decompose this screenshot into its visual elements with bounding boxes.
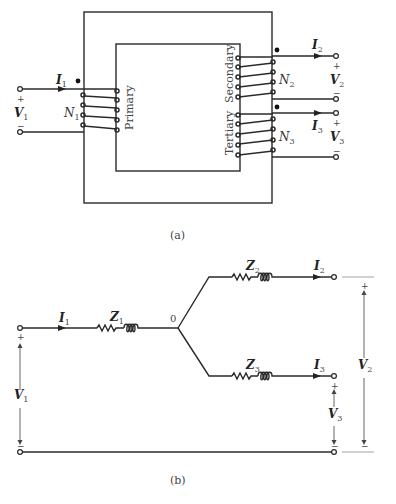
branch-lower [178,328,232,376]
v3-label: V3 [330,130,344,146]
secondary-polarity-dot [275,48,280,53]
n1-label: N1 [63,106,80,122]
i2-label-b: I2 [313,259,325,275]
v1-plus-sign: + [17,94,25,104]
v3-terminal-top [332,374,337,379]
v2-minus-sign: − [333,88,341,98]
i3-label-b: I3 [313,358,325,374]
i3-label: I3 [311,119,323,135]
figure-b: I1 Z1 0 Z2 I2 Z3 I3 + V1 [14,259,374,487]
secondary-coil [236,56,275,99]
primary-polarity-dot [76,79,81,84]
v1-label: V1 [14,106,28,122]
primary-label: Primary [123,85,136,130]
z2-inductor [258,273,279,281]
n3-label: N3 [278,130,295,146]
v3-minus-b: − [331,441,339,451]
branch-upper [178,277,232,328]
z3-label: Z3 [245,358,260,374]
v3-plus-b: + [331,381,339,391]
i2-label: I2 [311,38,323,54]
i1-label-b: I1 [58,311,70,327]
v2-minus-b: − [361,441,369,451]
v3-terminal-plus [334,111,339,116]
three-winding-transformer-figure: I1 + V1 − N1 Primary I2 N2 [0,0,396,504]
secondary-label: Secondary [223,43,236,103]
v2-plus-sign: + [333,61,341,71]
z3-inductor [258,372,279,380]
figure-a: I1 + V1 − N1 Primary I2 N2 [14,12,344,242]
tertiary-polarity-dot [275,105,280,110]
v3-plus-sign: + [333,118,341,128]
i1-label: I1 [55,73,67,89]
node-0-label: 0 [170,313,176,324]
v1-terminal-top [18,326,23,331]
primary-coil [81,89,119,132]
v3-minus-sign: − [333,146,341,156]
v2-label: V2 [330,73,344,89]
tertiary-coil [236,113,275,157]
v2-terminal-plus [334,54,339,59]
v1-label-b: V1 [14,388,28,404]
z1-label: Z1 [109,310,124,326]
v3-label-b: V3 [328,407,342,423]
i3-arrow [314,110,322,116]
v1-plus-b: + [17,332,25,342]
v2-terminal-top [332,275,337,280]
v2-plus-b: + [361,281,369,291]
z1-inductor [124,324,145,332]
caption-a: (a) [170,229,185,242]
z2-label: Z2 [245,259,260,275]
v1-terminal-plus [18,87,23,92]
n2-label: N2 [278,73,295,89]
v2-label-b: V2 [358,358,372,374]
v1-minus-sign: − [17,121,25,131]
caption-b: (b) [170,474,186,487]
tertiary-label: Tertiary [223,110,236,155]
v1-minus-b: − [17,441,25,451]
